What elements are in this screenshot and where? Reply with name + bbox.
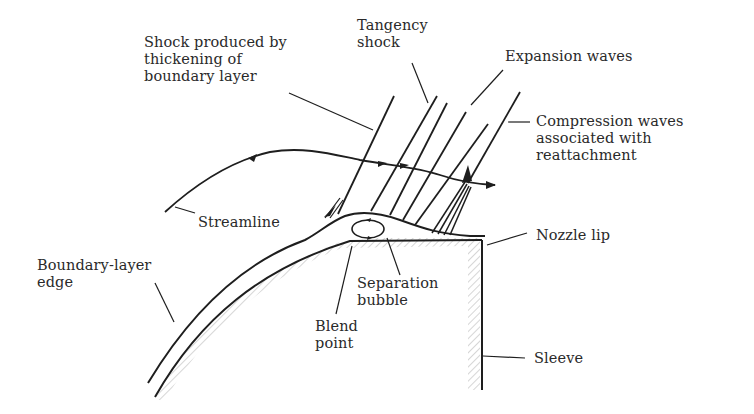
label-line: thickening of	[144, 51, 287, 68]
tangency-shock-line	[371, 96, 437, 211]
leader-nozzle-lip	[487, 233, 527, 245]
leader-streamline	[175, 207, 195, 213]
label-compression-waves: Compression waves associated with reatta…	[536, 113, 684, 164]
label-nozzle-lip: Nozzle lip	[536, 227, 610, 244]
separation-bubble-shape	[352, 220, 384, 238]
label-line: shock	[357, 34, 428, 51]
label-expansion-waves: Expansion waves	[505, 48, 633, 65]
label-line: Nozzle lip	[536, 227, 610, 244]
label-line: Tangency	[357, 17, 428, 34]
label-line: Boundary-layer	[37, 257, 151, 274]
leader-expansion-waves	[471, 70, 503, 105]
label-line: bubble	[357, 292, 439, 309]
diagram-canvas: Shock produced by thickening of boundary…	[0, 0, 754, 414]
label-line: Separation	[357, 275, 439, 292]
label-line: reattachment	[536, 147, 684, 164]
label-thickening-shock: Shock produced by thickening of boundary…	[144, 34, 287, 85]
streamline-arrow-1	[248, 154, 257, 162]
label-blend-point: Blend point	[315, 318, 358, 352]
diagram-drawing	[0, 0, 754, 414]
label-separation-bubble: Separation bubble	[357, 275, 439, 309]
label-line: Streamline	[198, 214, 280, 231]
compression-waves	[432, 92, 520, 235]
label-line: boundary layer	[144, 68, 287, 85]
label-tangency-shock: Tangency shock	[357, 17, 428, 51]
label-line: point	[315, 335, 358, 352]
leader-thickening-shock	[289, 93, 373, 130]
label-line: Blend	[315, 318, 358, 335]
label-streamline: Streamline	[198, 214, 280, 231]
label-line: Sleeve	[534, 350, 583, 367]
streamline-arrow-4	[486, 181, 496, 189]
streamline-path	[165, 150, 495, 212]
label-boundary-layer-edge: Boundary-layer edge	[37, 257, 151, 291]
label-line: edge	[37, 274, 151, 291]
label-line: associated with	[536, 130, 684, 147]
thickening-shock-line	[338, 96, 394, 214]
label-line: Shock produced by	[144, 34, 287, 51]
leader-sleeve	[483, 356, 525, 358]
leader-tangency-shock	[412, 63, 428, 103]
label-sleeve: Sleeve	[534, 350, 583, 367]
label-line: Compression waves	[536, 113, 684, 130]
label-line: Expansion waves	[505, 48, 633, 65]
leader-blend-point	[336, 246, 352, 314]
leader-boundary-layer-edge	[155, 283, 174, 322]
